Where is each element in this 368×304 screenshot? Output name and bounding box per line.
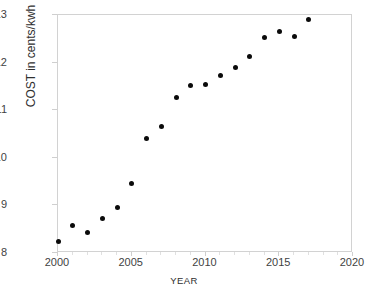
x-axis-tick-label: 2020	[324, 257, 368, 268]
x-axis-minor-tick-mark	[175, 252, 176, 255]
data-point	[159, 124, 164, 129]
y-axis-tick-label: 11	[0, 104, 7, 115]
x-axis-minor-tick-mark	[146, 252, 147, 255]
chart-title-clipped	[58, 0, 238, 7]
data-point	[174, 95, 179, 100]
y-axis-tick-label: 13	[0, 9, 7, 20]
x-axis-minor-tick-mark	[264, 252, 265, 255]
x-axis-minor-tick-mark	[190, 252, 191, 255]
y-axis-tick-mark	[52, 14, 57, 15]
data-point	[218, 73, 223, 78]
y-axis-tick-mark	[52, 62, 57, 63]
data-point	[292, 34, 297, 39]
data-point	[203, 82, 208, 87]
x-axis-minor-tick-mark	[249, 252, 250, 255]
data-point	[85, 230, 90, 235]
data-point	[233, 65, 238, 70]
y-axis-tick-label: 12	[0, 56, 7, 67]
data-point	[129, 181, 134, 186]
plot-frame	[57, 14, 352, 252]
x-axis-minor-tick-mark	[116, 252, 117, 255]
data-point	[144, 136, 149, 141]
data-point	[56, 239, 61, 244]
data-point	[70, 223, 75, 228]
x-axis-minor-tick-mark	[337, 252, 338, 255]
x-axis-title: YEAR	[0, 275, 368, 286]
scatter-chart-figure: COST in cents/kwh YEAR 89101112132000200…	[0, 0, 368, 304]
y-axis-tick-mark	[52, 157, 57, 158]
x-axis-minor-tick-mark	[293, 252, 294, 255]
y-axis-tick-mark	[52, 109, 57, 110]
data-point	[115, 205, 120, 210]
x-axis-tick-label: 2005	[103, 257, 159, 268]
x-axis-minor-tick-mark	[160, 252, 161, 255]
y-axis-title: COST in cents/kwh	[24, 0, 38, 140]
y-axis-tick-label: 9	[0, 199, 7, 210]
data-point	[188, 83, 193, 88]
x-axis-minor-tick-mark	[101, 252, 102, 255]
x-axis-tick-label: 2010	[177, 257, 233, 268]
x-axis-minor-tick-mark	[323, 252, 324, 255]
x-axis-minor-tick-mark	[219, 252, 220, 255]
x-axis-tick-label: 2000	[29, 257, 85, 268]
data-point	[262, 35, 267, 40]
plot-area	[58, 15, 351, 251]
x-axis-minor-tick-mark	[308, 252, 309, 255]
y-axis-tick-label: 10	[0, 151, 7, 162]
data-point	[247, 54, 252, 59]
data-point	[277, 29, 282, 34]
y-axis-tick-label: 8	[0, 247, 7, 258]
y-axis-tick-mark	[52, 204, 57, 205]
x-axis-minor-tick-mark	[87, 252, 88, 255]
data-point	[100, 216, 105, 221]
x-axis-minor-tick-mark	[234, 252, 235, 255]
x-axis-minor-tick-mark	[72, 252, 73, 255]
x-axis-tick-label: 2015	[250, 257, 306, 268]
data-point	[306, 17, 311, 22]
